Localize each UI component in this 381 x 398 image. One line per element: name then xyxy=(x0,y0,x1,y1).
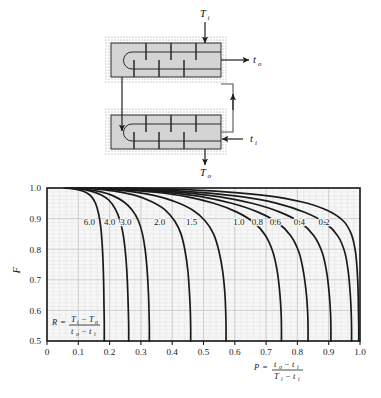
lower-shell-body xyxy=(111,115,221,149)
y-tick-labels: 0.50.60.70.80.91.0 xyxy=(30,183,42,346)
x-tick-0.7: 0.7 xyxy=(260,347,272,357)
r-num-minus: − xyxy=(81,314,87,324)
r-den-sub1: o xyxy=(76,331,79,337)
x-tick-1.0: 1.0 xyxy=(354,347,366,357)
y-tick-0.5: 0.5 xyxy=(30,336,42,346)
x-tick-0.5: 0.5 xyxy=(198,347,210,357)
tube-outlet-symbol: t xyxy=(253,54,257,65)
p-num-sub2: i xyxy=(297,364,299,370)
curve-label-1.5: 1.5 xyxy=(186,217,198,227)
y-tick-0.7: 0.7 xyxy=(30,275,42,285)
y-tick-0.8: 0.8 xyxy=(30,245,42,255)
diagram-label-shell-outlet: T o xyxy=(200,167,212,178)
curve-label-4.0: 4.0 xyxy=(104,217,116,227)
r-den-minus: − xyxy=(81,326,87,336)
curve-label-3.0: 3.0 xyxy=(120,217,132,227)
x-tick-0.3: 0.3 xyxy=(135,347,147,357)
upper-shell-body xyxy=(111,43,221,77)
shell-inlet-subscript: i xyxy=(208,14,210,22)
upper-shell-group xyxy=(104,36,228,84)
curve-label-1.0: 1.0 xyxy=(233,217,245,227)
x-tick-0.2: 0.2 xyxy=(104,347,116,357)
p-num-var1: t xyxy=(274,359,277,369)
x-tick-0: 0 xyxy=(45,347,50,357)
x-tick-0.8: 0.8 xyxy=(292,347,304,357)
diagram-label-tube-inlet: t i xyxy=(250,133,257,147)
shell-outlet-symbol: T xyxy=(200,167,207,178)
p-den-var2: t xyxy=(293,371,296,381)
x-tick-0.6: 0.6 xyxy=(229,347,241,357)
shell-inlet-symbol: T xyxy=(200,8,207,19)
p-formula: P = t o − t i T i − t i xyxy=(253,359,303,382)
p-num-var2: t xyxy=(292,359,295,369)
curve-label-0.2: 0.2 xyxy=(318,217,329,227)
curve-label-0.8: 0.8 xyxy=(252,217,264,227)
p-den-sub2: i xyxy=(298,376,300,382)
y-axis-title: F xyxy=(10,266,22,274)
r-num-sub2: o xyxy=(95,319,98,325)
p-formula-equals: = xyxy=(262,362,268,372)
y-tick-0.6: 0.6 xyxy=(30,306,42,316)
schematic-canvas: T i T o t o t i xyxy=(0,0,381,178)
x-tick-0.9: 0.9 xyxy=(323,347,335,357)
p-formula-lhs: P xyxy=(253,362,260,372)
p-den-minus: − xyxy=(285,371,291,381)
x-tick-labels: 00.10.20.30.40.50.60.70.80.91.0 xyxy=(45,347,366,357)
diagram-label-shell-inlet: T i xyxy=(200,8,210,22)
curve-label-2.0: 2.0 xyxy=(154,217,166,227)
tube-outlet-subscript: o xyxy=(258,60,262,68)
p-den-sub1: i xyxy=(281,376,283,382)
y-tick-1.0: 1.0 xyxy=(30,183,42,193)
p-num-minus: − xyxy=(284,359,290,369)
lmtd-correction-chart: 00.10.20.30.40.50.60.70.80.91.0 0.50.60.… xyxy=(0,178,381,398)
p-num-sub1: o xyxy=(279,364,282,370)
y-tick-0.9: 0.9 xyxy=(30,214,42,224)
curve-label-0.4: 0.4 xyxy=(294,217,306,227)
r-formula-lhs: R xyxy=(51,317,58,327)
diagram-label-tube-outlet: t o xyxy=(253,54,262,68)
x-tick-0.1: 0.1 xyxy=(73,347,85,357)
heat-exchanger-schematic: T i T o t o t i xyxy=(0,0,381,178)
chart-canvas: 00.10.20.30.40.50.60.70.80.91.0 0.50.60.… xyxy=(0,178,381,398)
p-den-var1: T xyxy=(274,371,280,381)
r-formula-equals: = xyxy=(60,317,66,327)
tube-inlet-subscript: i xyxy=(255,139,257,147)
curve-label-0.6: 0.6 xyxy=(270,217,282,227)
x-tick-0.4: 0.4 xyxy=(166,347,178,357)
curve-label-6.0: 6.0 xyxy=(84,217,96,227)
tube-inlet-symbol: t xyxy=(250,133,254,144)
